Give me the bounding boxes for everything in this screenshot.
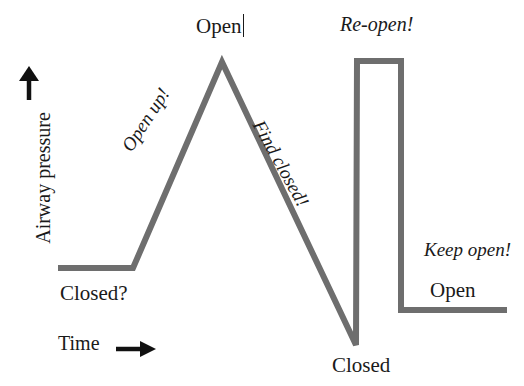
waveform-plot (0, 0, 524, 386)
annotation-closed-question: Closed? (60, 283, 128, 304)
text-caret-icon (243, 14, 244, 37)
up-arrow-icon (16, 66, 42, 100)
axis-x-label: Time (58, 333, 100, 353)
airway-pressure-figure: Airway pressure Time Open Open up! Find … (0, 0, 524, 386)
annotation-open-bottom: Open (430, 280, 476, 301)
axis-y-label: Airway pressure (33, 73, 53, 283)
annotation-closed-bottom: Closed (332, 355, 390, 376)
right-arrow-icon (116, 340, 156, 358)
annotation-reopen: Re-open! (340, 14, 413, 34)
annotation-keep-open: Keep open! (424, 240, 511, 259)
annotation-open-top-text: Open (196, 14, 242, 38)
annotation-open-top: Open (196, 14, 244, 37)
